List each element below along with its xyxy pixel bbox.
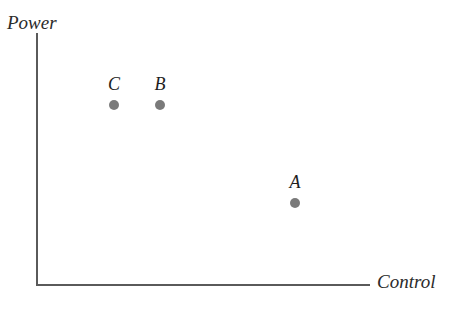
data-point-label-c: C [108, 75, 120, 93]
data-point-label-b: B [155, 75, 166, 93]
x-axis-line [36, 284, 370, 286]
data-point-b [155, 100, 165, 110]
x-axis-title: Control [377, 272, 435, 291]
y-axis-title: Power [7, 13, 57, 32]
figure-canvas: Power Control C B A [0, 0, 465, 317]
y-axis-line [36, 33, 38, 286]
data-point-a [290, 198, 300, 208]
data-point-label-a: A [290, 173, 301, 191]
data-point-c [109, 100, 119, 110]
